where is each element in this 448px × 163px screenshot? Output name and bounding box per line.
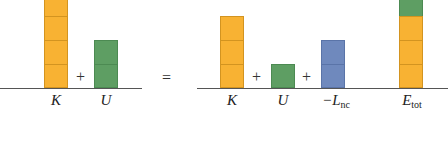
total-energy-label: Etot [402,93,422,110]
potential-block [94,40,118,65]
kinetic-block [220,16,244,41]
kinetic-block [399,64,423,88]
right-potential-label: U [278,93,289,108]
plus-operator: + [252,69,261,85]
kinetic-block [44,0,68,17]
nonconservative-block [321,64,345,88]
left-potential-bar [94,40,118,88]
nonconservative-label-main: −L [322,92,340,108]
right-potential-bar [271,64,295,88]
kinetic-block [44,40,68,65]
kinetic-block [399,16,423,41]
nonconservative-label-sub: nc [341,99,350,110]
nonconservative-block [321,40,345,65]
kinetic-block [44,16,68,41]
right-kinetic-label: K [227,93,237,108]
left-kinetic-label: K [51,93,61,108]
right-baseline [197,88,448,89]
potential-block [94,64,118,88]
nonconservative-work-bar [321,40,345,88]
potential-block [399,0,423,17]
left-kinetic-bar [44,0,68,88]
total-energy-label-main: E [402,92,411,108]
potential-block [271,64,295,88]
total-energy-bar [399,0,423,88]
kinetic-block [399,40,423,65]
energy-bar-diagram: + K U = + + K U −Lnc Etot [0,0,448,163]
plus-operator: + [302,69,311,85]
kinetic-block [220,64,244,88]
plus-operator: + [76,69,85,85]
nonconservative-work-label: −Lnc [322,93,350,110]
total-energy-label-sub: tot [411,99,422,110]
kinetic-block [44,64,68,88]
right-kinetic-bar [220,16,244,88]
equals-sign: = [162,70,171,86]
left-potential-label: U [101,93,112,108]
kinetic-block [220,40,244,65]
left-baseline [0,88,142,89]
